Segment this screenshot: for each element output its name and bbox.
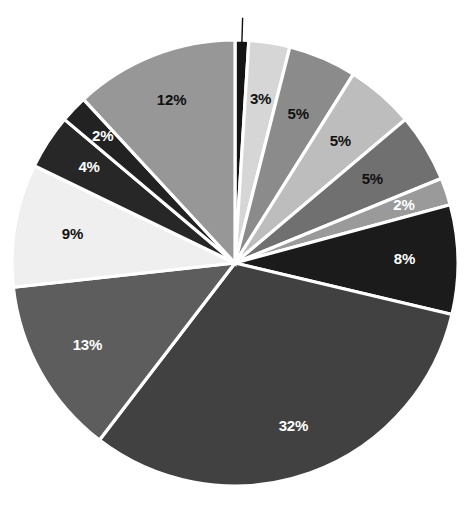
pie-chart-canvas: 1%3%5%5%5%2%8%32%13%9%4%2%12% <box>0 0 465 506</box>
pie-leader-lines-group <box>242 18 243 43</box>
pie-chart-figure: 1%3%5%5%5%2%8%32%13%9%4%2%12% <box>0 0 465 506</box>
pie-slices-group <box>12 40 458 486</box>
pie-label-leader-line <box>242 18 243 43</box>
